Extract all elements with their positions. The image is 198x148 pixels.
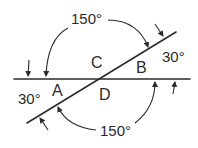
angle-value-left: 30° bbox=[18, 90, 41, 107]
left-extension-arrow bbox=[28, 60, 29, 76]
right-diagonal-arrow bbox=[155, 24, 163, 36]
angle-label-a: A bbox=[52, 82, 63, 99]
right-extension-arrow bbox=[173, 82, 175, 94]
intersecting-lines-diagram: 150° C B 30° 30° A D 150° bbox=[0, 0, 198, 148]
top-angle-arc-left bbox=[46, 28, 68, 76]
bottom-angle-arc-right bbox=[135, 82, 155, 123]
angle-label-b: B bbox=[136, 59, 147, 76]
top-angle-arc-right bbox=[108, 20, 148, 47]
left-diagonal-arrow bbox=[40, 118, 48, 130]
diagonal-line bbox=[27, 32, 176, 123]
angle-value-right: 30° bbox=[162, 48, 185, 65]
bottom-angle-arc-left bbox=[58, 107, 96, 130]
angle-label-c: C bbox=[91, 54, 103, 71]
angle-label-d: D bbox=[99, 86, 111, 103]
angle-value-top: 150° bbox=[71, 10, 102, 27]
angle-value-bottom: 150° bbox=[100, 122, 131, 139]
